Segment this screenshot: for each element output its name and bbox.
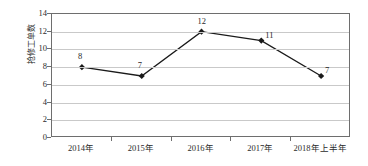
gridline (52, 32, 349, 33)
series-polyline (82, 32, 321, 76)
gridline (52, 103, 349, 104)
y-axis-tick-label: 8 (33, 62, 47, 71)
y-axis-tick-label: 14 (33, 9, 47, 18)
line-chart: 抢修工单数 02468101214 2014年2015年2016年2017年20… (0, 0, 368, 166)
x-axis-tick-label: 2018年上半年 (294, 143, 347, 154)
data-point-label: 12 (198, 17, 207, 26)
y-axis-tick-label: 12 (33, 27, 47, 36)
x-axis-tick-mark (290, 137, 291, 141)
y-axis-tick-label: 10 (33, 44, 47, 53)
data-point-label: 11 (265, 31, 273, 40)
x-axis-tick-label: 2014年 (68, 143, 94, 154)
x-axis-tick-mark (111, 137, 112, 141)
data-point-label: 7 (325, 66, 329, 75)
x-axis-tick-label: 2017年 (247, 143, 273, 154)
y-axis-tick-label: 6 (33, 80, 47, 89)
gridline (52, 85, 349, 86)
gridline (52, 67, 349, 68)
y-axis-tick-label: 0 (33, 133, 47, 142)
x-axis-tick-mark (171, 137, 172, 141)
x-axis-tick-label: 2016年 (188, 143, 214, 154)
y-axis-tick-label: 4 (33, 98, 47, 107)
y-axis-tick-label: 2 (33, 115, 47, 124)
plot-area (51, 13, 350, 137)
x-axis-tick-label: 2015年 (128, 143, 154, 154)
gridline (52, 120, 349, 121)
x-axis-tick-labels: 2014年2015年2016年2017年2018年上半年 (51, 143, 350, 157)
data-point-marker (258, 37, 264, 43)
data-point-label: 7 (138, 61, 142, 70)
x-axis-tick-marks (51, 137, 350, 141)
y-axis-tick-labels: 02468101214 (31, 13, 47, 137)
data-point-label: 8 (78, 52, 82, 61)
x-axis-tick-mark (230, 137, 231, 141)
gridline (52, 49, 349, 50)
data-point-marker (318, 73, 324, 79)
